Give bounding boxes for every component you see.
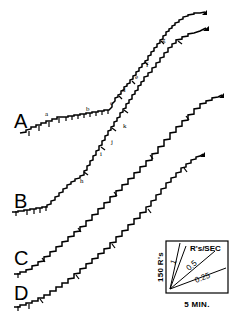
curve-label-a: A	[14, 110, 28, 132]
point-label-b: b	[86, 105, 90, 113]
curve-b-pips	[16, 41, 182, 216]
curve-label-b: B	[14, 190, 27, 212]
plot-area: A B C D a b c d e f g h i j k R's/SEC 1 …	[0, 0, 235, 317]
legend-y-axis-label: 150 R's	[156, 252, 165, 282]
legend-title: R's/SEC	[190, 244, 221, 253]
point-label-e: e	[135, 73, 138, 81]
point-label-g: g	[162, 36, 166, 44]
point-label-c: c	[110, 99, 113, 107]
point-label-j: j	[110, 138, 113, 146]
legend-inset: R's/SEC 1 0.5 0.25 150 R's 5 MIN.	[156, 241, 228, 309]
point-label-i: i	[100, 150, 102, 158]
point-label-k: k	[123, 122, 127, 130]
curve-label-c: C	[14, 247, 28, 269]
curve-label-d: D	[14, 282, 28, 304]
point-label-d: d	[122, 86, 126, 94]
curve-b	[12, 28, 206, 212]
point-label-h: h	[80, 177, 84, 185]
cumulative-record-figure: A B C D a b c d e f g h i j k R's/SEC 1 …	[0, 0, 235, 317]
point-label-a: a	[45, 110, 49, 118]
legend-x-axis-label: 5 MIN.	[184, 300, 209, 309]
point-label-f: f	[146, 61, 149, 69]
curve-b-group	[12, 26, 209, 216]
curve-d-endpoint	[200, 152, 205, 157]
